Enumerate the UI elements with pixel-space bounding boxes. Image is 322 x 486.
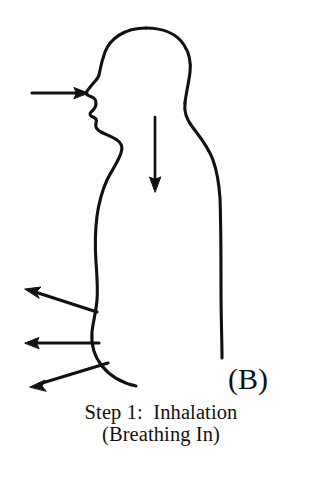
- caption-line-step-subtitle: (Breathing In): [0, 424, 322, 445]
- figure-caption: Step 1: Inhalation (Breathing In): [0, 402, 322, 446]
- caption-line-step-title: Step 1: Inhalation: [0, 402, 322, 423]
- figure-panel: (B) Step 1: Inhalation (Breathing In): [0, 0, 322, 486]
- panel-label-b: (B): [228, 364, 310, 394]
